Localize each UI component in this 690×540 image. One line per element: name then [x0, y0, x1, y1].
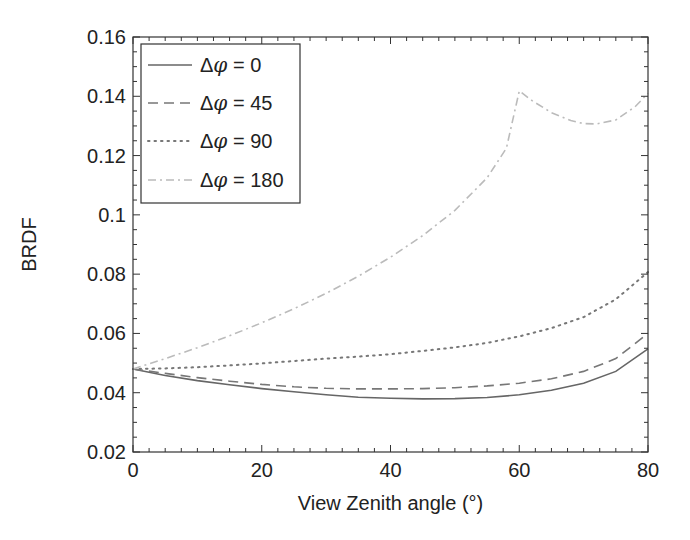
series-line-2: [133, 272, 648, 369]
legend-label-0: Δφ = 0: [200, 53, 261, 77]
y-tick-label: 0.06: [87, 322, 126, 344]
y-tick-label: 0.1: [98, 204, 126, 226]
legend-label-1: Δφ = 45: [200, 91, 272, 115]
y-tick-label: 0.14: [87, 85, 126, 107]
y-tick-label: 0.04: [87, 382, 126, 404]
x-axis-label: View Zenith angle (°): [298, 492, 484, 514]
x-tick-label: 80: [637, 459, 659, 481]
legend: Δφ = 0Δφ = 45Δφ = 90Δφ = 180: [141, 44, 300, 203]
y-tick-label: 0.12: [87, 145, 126, 167]
x-tick-label: 20: [251, 459, 273, 481]
legend-label-2: Δφ = 90: [200, 129, 272, 153]
x-tick-label: 40: [379, 459, 401, 481]
brdf-chart: 020406080 0.020.040.060.080.10.120.140.1…: [0, 0, 690, 540]
y-tick-label: 0.02: [87, 441, 126, 463]
legend-label-3: Δφ = 180: [200, 168, 284, 192]
y-tick-label: 0.08: [87, 263, 126, 285]
x-tick-label: 60: [508, 459, 530, 481]
x-tick-label: 0: [127, 459, 138, 481]
y-tick-label: 0.16: [87, 26, 126, 48]
y-axis-label: BRDF: [18, 217, 40, 271]
series-line-1: [133, 333, 648, 389]
